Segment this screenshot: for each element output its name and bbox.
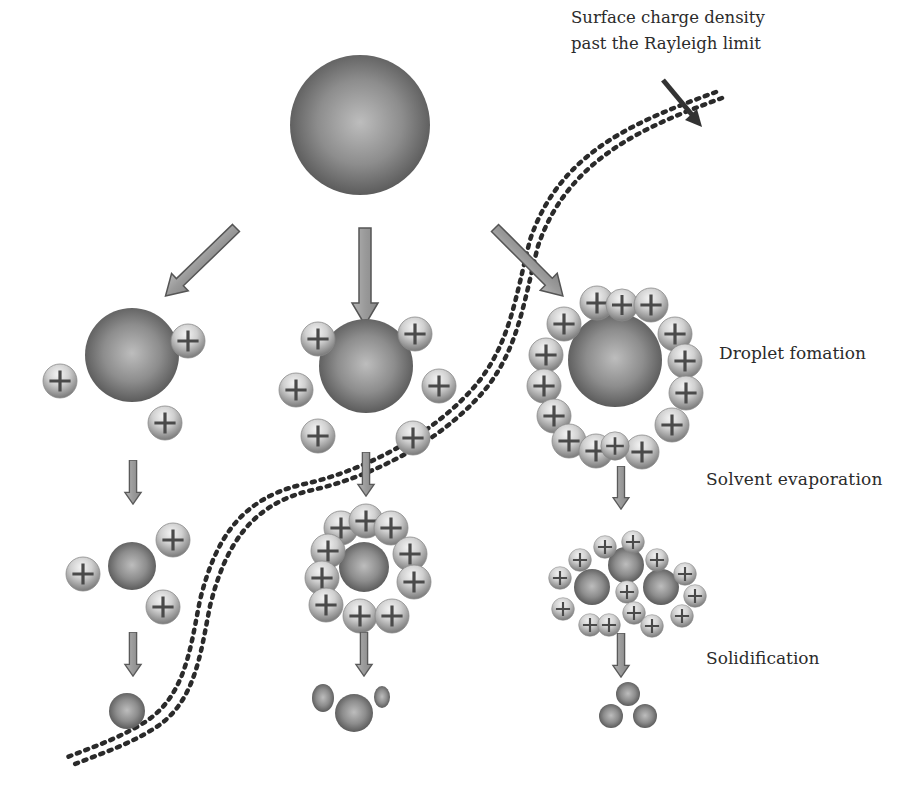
charge-icon — [601, 432, 629, 460]
charge-icon — [527, 369, 561, 403]
solid-particle — [599, 704, 623, 728]
evaporated-droplet — [108, 542, 156, 590]
charge-icon — [156, 523, 190, 557]
charge-icon — [171, 324, 205, 358]
charge-icon — [529, 338, 563, 372]
solid-particle — [312, 684, 334, 712]
charge-icon — [301, 322, 335, 356]
charge-icon — [668, 344, 702, 378]
charge-icon — [646, 549, 669, 572]
fission-droplet — [574, 569, 610, 605]
droplet — [85, 308, 179, 402]
charge-icon — [398, 317, 432, 351]
solid-particle — [335, 694, 373, 732]
stage-label-solvent-evaporation: Solvent evaporation — [706, 467, 883, 491]
column-low-charge — [43, 308, 205, 729]
charge-icon — [422, 369, 456, 403]
charge-icon — [549, 567, 572, 590]
down-arrow-icon — [613, 466, 629, 509]
charge-icon — [146, 590, 180, 624]
charge-icon — [301, 419, 335, 453]
charge-icon — [674, 563, 697, 586]
charge-icon — [43, 364, 77, 398]
down-arrow-icon — [356, 632, 372, 676]
solid-particle — [616, 682, 640, 706]
charge-icon — [547, 307, 581, 341]
charge-icon — [606, 289, 638, 321]
down-arrow-icon — [125, 460, 141, 504]
charge-icon — [279, 373, 313, 407]
column-medium-charge — [279, 317, 456, 732]
down-arrow-icon — [613, 633, 629, 677]
callout-line-1: Surface charge density — [571, 5, 765, 31]
column-high-charge — [527, 286, 709, 728]
charge-icon — [634, 288, 668, 322]
charge-icon — [569, 549, 592, 572]
rayleigh-limit-callout: Surface charge density past the Rayleigh… — [571, 5, 765, 57]
stage-label-droplet-formation: Droplet fomation — [719, 341, 866, 365]
charge-icon — [598, 614, 621, 637]
down-arrow-icon — [125, 632, 141, 676]
electrospray-diagram — [0, 0, 916, 798]
charge-icon — [671, 605, 694, 628]
charge-icon — [684, 585, 707, 608]
solid-particle — [109, 693, 145, 729]
solid-particle — [374, 686, 390, 708]
charge-icon — [616, 581, 639, 604]
charge-icon — [594, 536, 617, 559]
charge-icon — [397, 565, 431, 599]
droplet — [568, 313, 662, 407]
callout-line-2: past the Rayleigh limit — [571, 31, 765, 57]
charge-icon — [641, 615, 664, 638]
charge-icon — [309, 588, 343, 622]
charge-icon — [625, 435, 659, 469]
charge-icon — [552, 598, 575, 621]
left-branch-arrow-icon — [157, 219, 244, 304]
charge-icon — [375, 599, 409, 633]
charge-icon — [343, 599, 377, 633]
stage-label-solidification: Solidification — [706, 646, 820, 670]
charge-icon — [622, 531, 645, 554]
charge-icon — [396, 421, 430, 455]
charge-icon — [148, 406, 182, 440]
center-branch-arrow-icon — [352, 228, 378, 325]
parent-droplet — [290, 55, 430, 195]
charge-icon — [66, 557, 100, 591]
solid-particle — [633, 704, 657, 728]
